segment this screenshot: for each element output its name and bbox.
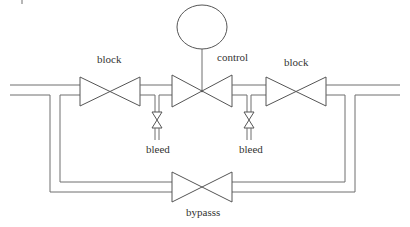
valve-manifold-diagram: block bleed control bleed <box>0 0 410 227</box>
right-bleed-label: bleed <box>239 143 263 155</box>
left-block-label: block <box>97 53 122 65</box>
left-bleed-valve[interactable] <box>152 95 162 140</box>
bypass-valve[interactable] <box>172 172 232 202</box>
pipe-left-block-to-control <box>140 85 172 95</box>
main-pipe-inlet <box>10 85 80 95</box>
right-block-label: block <box>284 56 309 68</box>
bypass-label: bypasss <box>186 206 220 218</box>
control-label: control <box>217 51 248 63</box>
pipe-control-to-right-block <box>232 85 266 95</box>
main-pipe-outlet <box>326 85 400 95</box>
control-actuator-icon <box>177 5 227 49</box>
right-block-valve[interactable] <box>266 77 326 106</box>
left-block-valve[interactable] <box>80 77 140 106</box>
left-bleed-label: bleed <box>146 143 170 155</box>
right-bleed-valve[interactable] <box>244 95 254 140</box>
